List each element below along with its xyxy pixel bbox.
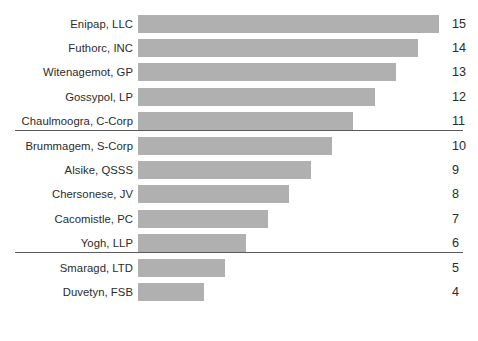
bar-value-label: 14	[452, 36, 466, 60]
chart-row: Futhorc, INC14	[0, 36, 478, 60]
bar	[138, 210, 268, 228]
bar	[138, 161, 311, 179]
bar-category-label: Chersonese, JV	[0, 182, 133, 206]
bar-value-label: 15	[452, 12, 466, 36]
bar	[138, 112, 353, 130]
bar	[138, 63, 396, 81]
bar-category-label: Futhorc, INC	[0, 36, 133, 60]
bar-value-label: 10	[452, 134, 466, 158]
chart-row: Smaragd, LTD5	[0, 256, 478, 280]
bar-category-label: Smaragd, LTD	[0, 256, 133, 280]
chart-row: Gossypol, LP12	[0, 85, 478, 109]
bar-category-label: Alsike, QSSS	[0, 158, 133, 182]
bar-value-label: 9	[452, 158, 459, 182]
bar-category-label: Witenagemot, GP	[0, 60, 133, 84]
bar-category-label: Duvetyn, FSB	[0, 280, 133, 304]
bar	[138, 88, 375, 106]
bar-category-label: Enipap, LLC	[0, 12, 133, 36]
chart-row: Alsike, QSSS9	[0, 158, 478, 182]
chart-row: Enipap, LLC15	[0, 12, 478, 36]
bar	[138, 15, 439, 33]
chart-row: Chersonese, JV8	[0, 182, 478, 206]
bar-value-label: 13	[452, 60, 466, 84]
bar	[138, 259, 225, 277]
chart-row: Duvetyn, FSB4	[0, 280, 478, 304]
chart-row: Brummagem, S-Corp10	[0, 134, 478, 158]
bar-value-label: 4	[452, 280, 459, 304]
group-separator-line	[15, 252, 463, 253]
horizontal-bar-chart: Enipap, LLC15Futhorc, INC14Witenagemot, …	[0, 0, 478, 341]
bar-value-label: 7	[452, 207, 459, 231]
chart-row: Cacomistle, PC7	[0, 207, 478, 231]
bar	[138, 283, 204, 301]
bar-category-label: Brummagem, S-Corp	[0, 134, 133, 158]
bar	[138, 137, 332, 155]
bar-value-label: 5	[452, 256, 459, 280]
chart-row: Witenagemot, GP13	[0, 60, 478, 84]
bar	[138, 185, 289, 203]
bar-category-label: Cacomistle, PC	[0, 207, 133, 231]
group-separator-line	[15, 130, 463, 131]
bar	[138, 39, 418, 57]
bar	[138, 234, 246, 252]
bar-value-label: 8	[452, 182, 459, 206]
bar-value-label: 12	[452, 85, 466, 109]
bar-category-label: Gossypol, LP	[0, 85, 133, 109]
